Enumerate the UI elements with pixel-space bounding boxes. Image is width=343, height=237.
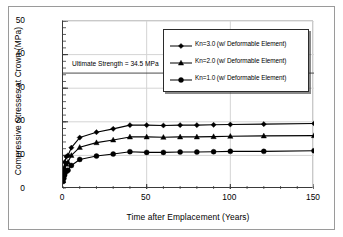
ultimate-strength-annotation: Ultimate Strength = 34.5 MPa bbox=[72, 60, 159, 67]
x-axis-title: Time after Emplacement (Years) bbox=[62, 212, 314, 222]
data-point-marker bbox=[111, 126, 116, 131]
x-tick-label: 150 bbox=[293, 192, 333, 202]
data-point-marker bbox=[179, 77, 184, 82]
y-tick-label: 0 bbox=[0, 183, 25, 193]
x-tick-label: 100 bbox=[209, 192, 249, 202]
data-point-marker bbox=[127, 123, 132, 128]
data-point-marker bbox=[211, 149, 216, 154]
legend-marker-diamond-icon bbox=[169, 38, 193, 50]
x-tick-label: 0 bbox=[42, 192, 82, 202]
data-point-marker bbox=[228, 122, 233, 127]
chart-figure: Compressive Stresses at Crown (MPa) Time… bbox=[0, 0, 343, 237]
legend-label: Kn=1.0 (w/ Deformable Element) bbox=[195, 74, 286, 81]
data-series-2 bbox=[63, 133, 314, 183]
data-point-marker bbox=[261, 149, 266, 154]
data-point-marker bbox=[211, 122, 216, 127]
data-point-marker bbox=[178, 150, 183, 155]
legend-label: Kn=2.0 (w/ Deformable Element) bbox=[195, 57, 286, 64]
legend-item-1[interactable]: Kn=3.0 (w/ Deformable Element) bbox=[169, 35, 304, 52]
x-tick-label: 50 bbox=[126, 192, 166, 202]
data-point-marker bbox=[69, 163, 74, 168]
data-point-marker bbox=[228, 149, 233, 154]
data-point-marker bbox=[144, 150, 149, 155]
data-point-marker bbox=[127, 149, 132, 154]
data-point-marker bbox=[178, 123, 183, 128]
y-axis-title: Compressive Stresses at Crown (MPa) bbox=[13, 11, 23, 191]
chart-legend: Kn=3.0 (w/ Deformable Element)Kn=2.0 (w/… bbox=[163, 29, 309, 92]
legend-item-2[interactable]: Kn=2.0 (w/ Deformable Element) bbox=[169, 52, 304, 69]
data-point-marker bbox=[77, 157, 82, 162]
legend-marker-circle-icon bbox=[169, 72, 193, 84]
data-point-marker bbox=[94, 130, 99, 135]
legend-label: Kn=3.0 (w/ Deformable Element) bbox=[195, 40, 286, 47]
data-point-marker bbox=[66, 168, 71, 173]
data-point-marker bbox=[194, 150, 199, 155]
legend-item-3[interactable]: Kn=1.0 (w/ Deformable Element) bbox=[169, 69, 304, 86]
data-point-marker bbox=[144, 123, 149, 128]
data-series-3 bbox=[63, 148, 314, 184]
y-tick-label: 50 bbox=[0, 15, 25, 25]
y-tick-label: 10 bbox=[0, 149, 25, 159]
legend-marker-triangle-icon bbox=[169, 55, 193, 67]
y-tick-label: 30 bbox=[0, 82, 25, 92]
data-point-marker bbox=[161, 150, 166, 155]
data-point-marker bbox=[161, 123, 166, 128]
y-tick-label: 40 bbox=[0, 48, 25, 58]
data-point-marker bbox=[194, 123, 199, 128]
data-point-marker bbox=[312, 148, 315, 153]
data-point-marker bbox=[261, 122, 266, 127]
data-point-marker bbox=[94, 154, 99, 159]
data-point-marker bbox=[178, 43, 183, 48]
data-point-marker bbox=[111, 152, 116, 157]
y-tick-label: 20 bbox=[0, 115, 25, 125]
